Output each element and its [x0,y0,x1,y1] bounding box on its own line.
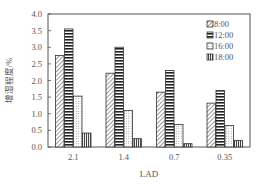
legend-swatch-vertical-icon [207,54,213,60]
bar-1600-1.4 [124,110,133,147]
x-axis-label: LAD [140,169,159,179]
bar-800-1.4 [106,73,115,147]
bar-1800-0.7 [184,144,193,147]
y-tick-label: 3.0 [31,42,42,52]
bar-1600-0.7 [175,124,184,147]
x-tick-label: 0.35 [217,152,232,162]
legend-label: 8:00 [214,19,229,29]
y-tick-label: 1.0 [31,109,42,119]
x-tick-label: 1.4 [118,152,129,162]
y-tick-label: 2.5 [31,59,42,69]
bar-1800-1.4 [133,139,142,147]
bar-1200-1.4 [115,47,124,147]
bar-1800-2.1 [83,133,92,147]
bar-1600-2.1 [74,96,83,147]
y-tick-label: 3.5 [31,26,42,36]
legend-swatch-diagonal-icon [207,21,213,27]
bar-1600-0.35 [225,125,234,147]
legend-label: 16:00 [214,41,233,51]
bar-1800-0.35 [234,140,243,147]
bar-800-0.7 [157,92,166,147]
legend-label: 18:00 [214,52,233,62]
legend-swatch-horizontal-icon [207,32,213,38]
y-axis-label: 增湿程度/% [4,58,14,103]
y-tick-label: 4.0 [31,9,42,19]
legend: 8:0012:0016:0018:00 [207,19,233,62]
bar-1200-2.1 [65,29,74,147]
bar-chart: 0.00.51.01.52.02.53.03.54.0增湿程度/%LAD2.11… [0,0,261,185]
bar-800-2.1 [56,56,65,147]
y-tick-label: 1.5 [31,92,42,102]
y-tick-label: 0.0 [31,142,42,152]
legend-swatch-dotted-icon [207,43,213,49]
bar-1200-0.7 [166,71,175,147]
y-tick-label: 0.5 [31,125,42,135]
bar-1200-0.35 [216,90,225,147]
x-tick-label: 0.7 [169,152,180,162]
x-tick-label: 2.1 [68,152,79,162]
bar-800-0.35 [207,103,216,147]
y-tick-label: 2.0 [31,76,42,86]
legend-label: 12:00 [214,30,233,40]
